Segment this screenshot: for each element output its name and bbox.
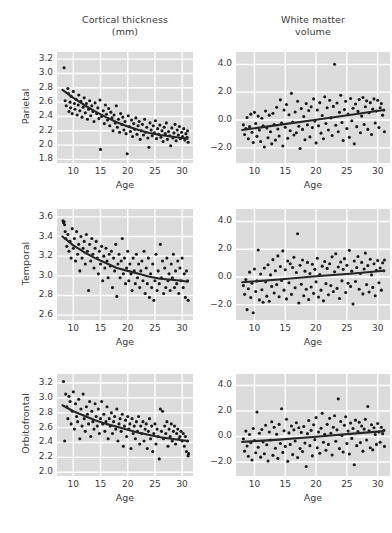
x-tick-label: 15: [89, 479, 113, 489]
x-tick-label: 20: [116, 166, 140, 176]
row-label-orbitofrontal: Orbitofrontal: [20, 373, 31, 475]
x-tick-label: 10: [242, 166, 266, 176]
x-axis-label: Age: [236, 336, 390, 347]
x-tick-label: 30: [366, 323, 390, 333]
plot-canvas: [57, 209, 193, 320]
gridlines: [57, 52, 193, 163]
x-tick-label: 20: [304, 479, 328, 489]
plot-panel-orbitofrontal-thickness: [57, 374, 193, 476]
x-tick-label: 30: [170, 166, 194, 176]
plot-panel-orbitofrontal-volume: [236, 374, 390, 476]
y-tick-label: −2.0: [200, 456, 232, 466]
x-tick-label: 10: [61, 166, 85, 176]
x-tick-label: 25: [143, 323, 167, 333]
x-tick-label: 30: [170, 479, 194, 489]
column-title-line2: (mm): [57, 26, 193, 38]
x-tick-label: 25: [143, 166, 167, 176]
column-title-line1: Cortical thickness: [57, 14, 193, 26]
y-tick-label: 2.0: [200, 86, 232, 96]
y-tick-label: 0.0: [200, 114, 232, 124]
trend-line: [62, 405, 187, 441]
x-tick-label: 10: [242, 479, 266, 489]
x-tick-label: 30: [170, 323, 194, 333]
y-tick-label: 0.0: [200, 430, 232, 440]
x-tick-label: 20: [116, 323, 140, 333]
scatter-points: [61, 219, 189, 302]
x-axis-label: Age: [57, 179, 193, 190]
column-title-line2: volume: [236, 26, 390, 38]
y-tick-label: 4.0: [200, 215, 232, 225]
plot-canvas: [236, 374, 390, 476]
x-tick-label: 15: [273, 479, 297, 489]
x-axis-label: Age: [57, 336, 193, 347]
row-label-temporal: Temporal: [20, 208, 31, 319]
x-tick-label: 25: [335, 166, 359, 176]
x-axis-label: Age: [236, 492, 390, 503]
column-title-line1: White matter: [236, 14, 390, 26]
x-tick-label: 25: [335, 323, 359, 333]
plot-canvas: [236, 209, 390, 320]
y-tick-label: 4.0: [200, 379, 232, 389]
x-tick-label: 15: [89, 323, 113, 333]
x-axis-label: Age: [236, 179, 390, 190]
scatter-points: [242, 63, 386, 150]
column-title-1: Cortical thickness(mm): [57, 14, 193, 37]
scatter-points: [63, 66, 190, 155]
x-tick-label: 15: [273, 323, 297, 333]
plot-canvas: [57, 52, 193, 163]
figure-panel-grid: Cortical thickness(mm)White mattervolume…: [0, 0, 392, 533]
y-tick-label: 2.0: [200, 243, 232, 253]
plot-panel-parietal-volume: [236, 52, 390, 163]
x-tick-label: 10: [61, 323, 85, 333]
scatter-points: [62, 380, 190, 461]
plot-canvas: [236, 52, 390, 163]
x-tick-label: 30: [366, 479, 390, 489]
x-tick-label: 25: [335, 479, 359, 489]
x-tick-label: 10: [242, 323, 266, 333]
plot-panel-temporal-volume: [236, 209, 390, 320]
plot-panel-parietal-thickness: [57, 52, 193, 163]
plot-panel-temporal-thickness: [57, 209, 193, 320]
x-tick-label: 20: [304, 166, 328, 176]
x-tick-label: 20: [116, 479, 140, 489]
y-tick-label: −2.0: [200, 142, 232, 152]
y-tick-label: 2.0: [200, 405, 232, 415]
plot-canvas: [57, 374, 193, 476]
x-tick-label: 20: [304, 323, 328, 333]
gridlines: [236, 52, 390, 163]
x-tick-label: 30: [366, 166, 390, 176]
x-tick-label: 15: [273, 166, 297, 176]
x-tick-label: 10: [61, 479, 85, 489]
x-tick-label: 15: [89, 166, 113, 176]
column-title-2: White mattervolume: [236, 14, 390, 37]
y-tick-label: −2.0: [200, 299, 232, 309]
y-tick-label: 4.0: [200, 58, 232, 68]
x-axis-label: Age: [57, 492, 193, 503]
y-tick-label: 0.0: [200, 271, 232, 281]
x-tick-label: 25: [143, 479, 167, 489]
row-label-parietal: Parietal: [20, 51, 31, 162]
